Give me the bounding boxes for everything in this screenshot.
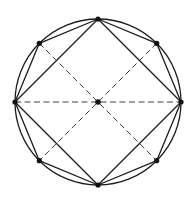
vertex-point-3 [154,158,159,163]
vertex-point-5 [37,158,42,163]
vertex-point-7 [37,41,42,46]
vertex-point-4 [95,182,100,187]
vertex-point-0 [95,16,100,21]
vertex-point-1 [154,41,159,46]
center-point [95,99,101,105]
vertex-point-6 [12,99,17,104]
vertex-point-2 [178,99,183,104]
geometry-diagram [0,0,193,201]
